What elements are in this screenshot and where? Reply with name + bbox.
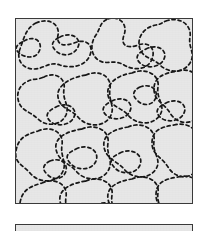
domain-boundary-contour [18, 75, 67, 124]
contour-path-group [16, 19, 193, 204]
domain-boundary-contour [103, 99, 131, 119]
figure-root [0, 0, 206, 231]
domain-boundary-contour [60, 179, 114, 204]
microstructure-panel [15, 18, 193, 204]
domain-contours [16, 19, 193, 204]
domain-boundary-contour [92, 19, 153, 69]
domain-boundary-contour [67, 147, 97, 169]
domain-boundary-contour [137, 47, 165, 67]
domain-boundary-contour [58, 73, 112, 125]
domain-boundary-contour [44, 160, 67, 179]
domain-boundary-contour [156, 176, 193, 204]
domain-boundary-contour [134, 86, 157, 105]
domain-boundary-contour [104, 125, 158, 177]
scale-bar [15, 224, 193, 231]
domain-boundary-contour [87, 203, 117, 204]
domain-boundary-contour [19, 21, 91, 69]
domain-boundary-contour [108, 177, 162, 204]
scale-bar-texture-overlay [16, 225, 192, 231]
domain-boundary-contour [152, 124, 193, 177]
domain-boundary-contour [16, 129, 64, 181]
domain-boundary-contour [56, 127, 110, 179]
